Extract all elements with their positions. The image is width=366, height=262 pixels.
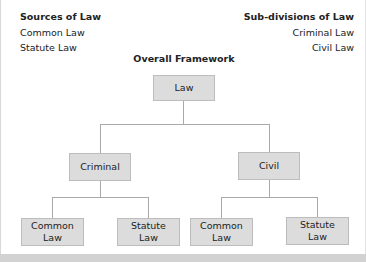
bottom-band <box>0 254 366 262</box>
node-label-line1: Statute <box>300 219 335 231</box>
connector-criminal-statute <box>148 197 149 218</box>
connector-civil-horizontal <box>221 197 318 198</box>
node-criminal-common-law: Common Law <box>21 218 84 246</box>
node-law-label: Law <box>175 82 194 94</box>
subdivisions-of-law-legend: Sub-divisions of Law Criminal Law Civil … <box>244 9 354 56</box>
node-label-line2: Law <box>131 232 166 244</box>
node-criminal-label: Criminal <box>80 161 120 173</box>
node-label-line2: Law <box>300 231 335 243</box>
sources-title: Sources of Law <box>20 9 101 25</box>
node-criminal: Criminal <box>69 153 131 181</box>
connector-civil-statute <box>317 197 318 218</box>
framework-title: Overall Framework <box>1 53 366 64</box>
sources-of-law-legend: Sources of Law Common Law Statute Law <box>20 9 101 56</box>
node-criminal-statute-law: Statute Law <box>117 218 180 246</box>
node-label-line2: Law <box>31 232 74 244</box>
node-label-line1: Common <box>200 220 243 232</box>
connector-civil-down <box>269 180 270 197</box>
connector-civil-common <box>221 197 222 218</box>
node-civil-statute-law: Statute Law <box>286 217 349 245</box>
connector-to-civil <box>269 124 270 152</box>
node-label-line1: Statute <box>131 220 166 232</box>
node-label-line2: Law <box>200 232 243 244</box>
subdivisions-title: Sub-divisions of Law <box>244 9 354 25</box>
node-civil-common-law: Common Law <box>190 218 253 246</box>
connector-criminal-horizontal <box>52 197 149 198</box>
node-label-line1: Common <box>31 220 74 232</box>
node-law: Law <box>153 75 215 101</box>
node-civil: Civil <box>238 152 300 180</box>
connector-level1-horizontal <box>100 124 270 125</box>
connector-criminal-down <box>100 181 101 197</box>
source-item: Common Law <box>20 25 101 41</box>
node-civil-label: Civil <box>259 160 279 172</box>
diagram-page: Sources of Law Common Law Statute Law Su… <box>0 0 366 254</box>
connector-root-down <box>183 100 184 124</box>
connector-criminal-common <box>52 197 53 218</box>
subdivision-item: Criminal Law <box>244 25 354 41</box>
connector-to-criminal <box>100 124 101 153</box>
